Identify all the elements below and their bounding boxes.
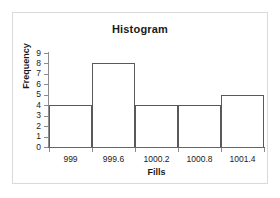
x-axis-tick-mark bbox=[221, 148, 222, 152]
y-axis-tick-mark bbox=[44, 63, 48, 64]
x-axis-label: Fills bbox=[49, 167, 264, 177]
histogram-bar bbox=[92, 63, 135, 147]
x-axis-tick-label: 1000.8 bbox=[178, 154, 221, 164]
histogram-bar bbox=[135, 105, 178, 147]
y-axis-tick-mark bbox=[44, 53, 48, 54]
x-axis-tick-label: 1001.4 bbox=[221, 154, 264, 164]
y-axis-tick-mark bbox=[44, 84, 48, 85]
x-axis-tick-mark bbox=[135, 148, 136, 152]
y-axis-tick-mark bbox=[44, 74, 48, 75]
x-axis-tick-mark bbox=[264, 148, 265, 152]
y-axis-tick-label: 6 bbox=[27, 80, 41, 89]
y-axis-tick-mark bbox=[44, 116, 48, 117]
histogram-bar bbox=[49, 105, 92, 147]
x-axis-line bbox=[48, 147, 265, 148]
y-axis-tick-mark bbox=[44, 137, 48, 138]
y-axis-tick-mark bbox=[44, 147, 48, 148]
y-axis-tick-label: 1 bbox=[27, 132, 41, 141]
y-axis-tick-label: 3 bbox=[27, 111, 41, 120]
y-axis-tick-label: 5 bbox=[27, 90, 41, 99]
y-axis-tick-label: 4 bbox=[27, 101, 41, 110]
x-axis-tick-mark bbox=[92, 148, 93, 152]
chart-frame: Histogram Frequency 0123456789 999999.61… bbox=[12, 12, 268, 184]
plot-area: Frequency 0123456789 999999.61000.21000.… bbox=[13, 13, 269, 185]
x-axis-tick-label: 999 bbox=[49, 154, 92, 164]
y-axis-tick-label: 7 bbox=[27, 69, 41, 78]
x-axis-tick-labels: 999999.61000.21000.81001.4 bbox=[49, 154, 264, 166]
x-axis-tick-mark bbox=[178, 148, 179, 152]
y-axis-tick-mark bbox=[44, 105, 48, 106]
y-axis-tick-label: 9 bbox=[27, 49, 41, 58]
x-axis-tick-label: 999.6 bbox=[92, 154, 135, 164]
y-axis-tick-mark bbox=[44, 95, 48, 96]
y-axis-tick-label: 8 bbox=[27, 59, 41, 68]
y-axis-tick-label: 0 bbox=[27, 143, 41, 152]
y-axis-tick-mark bbox=[44, 126, 48, 127]
y-axis-tick-labels: 0123456789 bbox=[27, 47, 41, 147]
x-axis-tick-mark bbox=[49, 148, 50, 152]
histogram-bar bbox=[221, 95, 264, 147]
histogram-bars bbox=[49, 53, 264, 147]
x-axis-tick-label: 1000.2 bbox=[135, 154, 178, 164]
y-axis-tick-label: 2 bbox=[27, 122, 41, 131]
histogram-bar bbox=[178, 105, 221, 147]
